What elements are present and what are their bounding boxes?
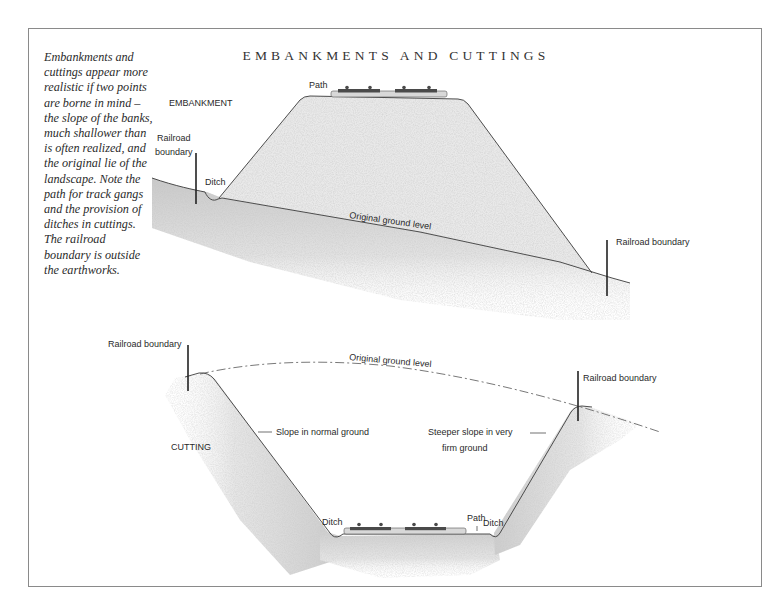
cutting-section: Railroad boundary Original ground level … <box>108 339 660 578</box>
embankment-boundary-right-label: Railroad boundary <box>616 237 690 247</box>
cutting-slope-steep-label-2: firm ground <box>442 443 488 453</box>
cutting-slope-steep-label-1: Steeper slope in very <box>428 427 513 437</box>
cutting-ground-label: Original ground level <box>349 352 432 369</box>
cross-section-diagram: EMBANKMENT Path Railroad boundary Ditch … <box>0 0 772 612</box>
embankment-ditch-label: Ditch <box>205 177 226 187</box>
cutting-slope-normal-label: Slope in normal ground <box>276 427 369 437</box>
embankment-boundary-left-label-1: Railroad <box>157 133 191 143</box>
cutting-ditch-right-label: Ditch <box>483 518 504 528</box>
embankment-section: EMBANKMENT Path Railroad boundary Ditch … <box>152 80 690 320</box>
embankment-boundary-left-label-2: boundary <box>155 147 193 157</box>
cutting-section-label: CUTTING <box>171 442 211 452</box>
cutting-boundary-left-label: Railroad boundary <box>108 339 182 349</box>
cutting-ditch-left-label: Ditch <box>322 517 343 527</box>
embankment-section-label: EMBANKMENT <box>169 98 233 108</box>
cutting-boundary-right-label: Railroad boundary <box>583 373 657 383</box>
embankment-track <box>331 86 447 97</box>
cutting-track <box>344 523 477 534</box>
embankment-path-label: Path <box>309 80 328 90</box>
